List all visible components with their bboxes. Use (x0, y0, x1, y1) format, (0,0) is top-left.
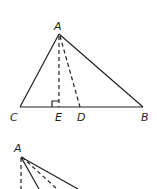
triangle-abc (20, 34, 143, 107)
label-e: E (55, 111, 62, 124)
label-c: C (10, 111, 18, 124)
label-a: A (53, 20, 62, 33)
label-a-second: A (13, 142, 22, 155)
second-figure (21, 157, 78, 189)
segment-ad (60, 36, 80, 107)
side-ac (20, 34, 59, 107)
label-d: D (77, 111, 85, 124)
side-ab (59, 34, 143, 107)
geometry-diagram: A C E D B A (0, 0, 157, 189)
label-b: B (141, 111, 149, 124)
dashed-line (22, 157, 57, 189)
right-angle-mark (52, 101, 59, 107)
